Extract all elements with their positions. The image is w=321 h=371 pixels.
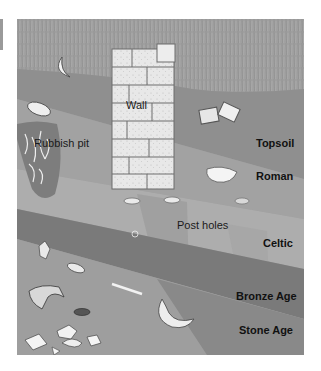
wall-illustration — [112, 44, 175, 189]
layer-label-roman: Roman — [256, 171, 293, 182]
layer-label-stone-age: Stone Age — [239, 325, 293, 336]
label-rubbish-pit: Rubbish pit — [34, 138, 89, 149]
label-post-holes: Post holes — [177, 220, 228, 231]
layer-label-topsoil: Topsoil — [256, 138, 294, 149]
soil-diagram-graphic — [17, 19, 304, 355]
layer-label-bronze-age: Bronze Age — [236, 291, 297, 302]
side-tab — [0, 19, 3, 50]
soil-layers-illustration: Wall Rubbish pit Post holes Topsoil Roma… — [17, 19, 304, 355]
layer-label-celtic: Celtic — [263, 238, 293, 249]
label-wall: Wall — [126, 100, 147, 111]
